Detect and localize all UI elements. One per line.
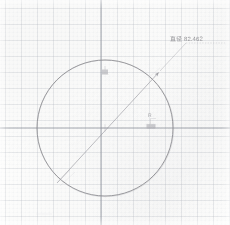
radius-tick-label: R <box>148 112 152 119</box>
grid-major <box>0 0 230 225</box>
sketch-canvas: 直径 82.462 R <box>0 0 230 225</box>
sketch-drawing <box>0 0 230 225</box>
diameter-dimension-label: 直径 82.462 <box>170 36 203 43</box>
